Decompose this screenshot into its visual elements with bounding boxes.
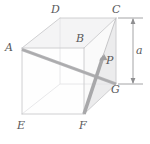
front-face [22, 48, 84, 114]
label-P: P [106, 55, 113, 66]
label-D: D [51, 4, 60, 15]
label-a: a [136, 45, 143, 56]
label-A: A [5, 42, 13, 53]
label-E: E [17, 120, 25, 131]
label-F: F [79, 120, 87, 131]
label-G: G [111, 84, 120, 95]
diagram-canvas: A B C D E F G P a [0, 0, 150, 144]
label-B: B [76, 33, 84, 44]
label-C: C [112, 4, 120, 15]
